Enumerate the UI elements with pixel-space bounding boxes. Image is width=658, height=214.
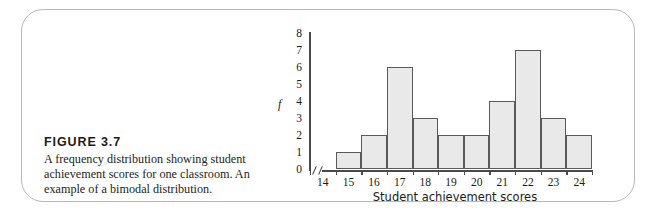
bar-18	[413, 118, 439, 169]
histogram-chart: f 876543210 1415161718192021222324 Stude…	[270, 24, 620, 204]
y-tick-label-6: 6	[288, 61, 302, 73]
x-tick-label-15: 15	[335, 176, 361, 188]
caption-block: FIGURE 3.7 A frequency distribution show…	[44, 135, 259, 198]
bar-24	[566, 135, 592, 169]
x-tick-5	[438, 170, 439, 175]
y-tick-label-5: 5	[288, 78, 302, 90]
figure-number-heading: FIGURE 3.7	[44, 135, 259, 149]
x-tick-0	[310, 170, 311, 175]
x-tick-label-23: 23	[541, 176, 567, 188]
x-tick-4	[413, 170, 414, 175]
x-tick-6	[464, 170, 465, 175]
bar-22	[515, 50, 541, 169]
x-tick-1	[336, 170, 337, 175]
x-tick-label-22: 22	[515, 176, 541, 188]
bar-19	[438, 135, 464, 169]
bar-20	[464, 135, 490, 169]
bar-23	[541, 118, 567, 169]
x-tick-3	[387, 170, 388, 175]
y-tick-label-8: 8	[288, 27, 302, 39]
bar-21	[489, 101, 515, 169]
y-tick-label-1: 1	[288, 146, 302, 158]
plot-bars	[310, 34, 592, 169]
y-tick-label-3: 3	[288, 112, 302, 124]
y-tick-label-4: 4	[288, 95, 302, 107]
y-tick-label-2: 2	[288, 129, 302, 141]
x-tick-11	[592, 170, 593, 175]
figure-caption-text: A frequency distribution showing student…	[44, 152, 259, 198]
bar-16	[361, 135, 387, 169]
x-tick-10	[566, 170, 567, 175]
x-tick-label-19: 19	[438, 176, 464, 188]
x-tick-label-21: 21	[489, 176, 515, 188]
x-tick-label-24: 24	[566, 176, 592, 188]
x-tick-label-17: 17	[387, 176, 413, 188]
y-tick-label-7: 7	[288, 44, 302, 56]
x-tick-7	[489, 170, 490, 175]
bar-17	[387, 67, 413, 169]
bar-15	[336, 152, 362, 169]
y-axis-title: f	[278, 97, 281, 112]
x-tick-label-18: 18	[412, 176, 438, 188]
figure-card: FIGURE 3.7 A frequency distribution show…	[21, 9, 635, 202]
x-tick-label-20: 20	[464, 176, 490, 188]
y-tick-label-0: 0	[288, 163, 302, 175]
x-tick-2	[361, 170, 362, 175]
x-axis-title: Student achievement scores	[310, 190, 600, 204]
x-tick-9	[541, 170, 542, 175]
x-tick-label-14: 14	[310, 176, 336, 188]
x-tick-8	[515, 170, 516, 175]
x-tick-label-16: 16	[361, 176, 387, 188]
